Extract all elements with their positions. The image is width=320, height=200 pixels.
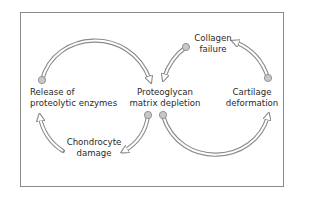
arrow-proteoglycan-to-cartilage [159,111,268,154]
arrow-chondrocyte-to-release [40,117,63,151]
arrow-release-to-proteoglycan [38,41,150,84]
arrow-collagen-to-proteoglycan [164,43,190,78]
node-cartilage-deformation: Cartilage deformation [222,87,282,108]
start-dot [38,76,45,83]
node-label-line: matrix depletion [120,98,210,109]
node-label-line: Collagen [188,33,238,44]
node-label-line: Cartilage [222,87,282,98]
arrow-proteoglycan-to-chondrocyte [124,111,152,151]
start-dot [144,111,151,118]
node-label-line: Release of [30,87,117,98]
node-release-of-proteolytic-enzymes: Release of proteolytic enzymes [30,87,117,108]
node-label-line: failure [188,44,238,55]
node-collagen-failure: Collagen failure [188,33,238,54]
node-label-line: deformation [222,98,282,109]
node-label-line: proteolytic enzymes [30,98,117,109]
arrow-cartilage-to-collagen [235,42,272,82]
node-proteoglycan-matrix-depletion: Proteoglycan matrix depletion [120,87,210,108]
node-label-line: Chondrocyte [64,137,124,148]
node-label-line: damage [64,148,124,159]
node-label-line: Proteoglycan [120,87,210,98]
start-dot [159,111,166,118]
start-dot [264,74,271,81]
node-chondrocyte-damage: Chondrocyte damage [64,137,124,158]
